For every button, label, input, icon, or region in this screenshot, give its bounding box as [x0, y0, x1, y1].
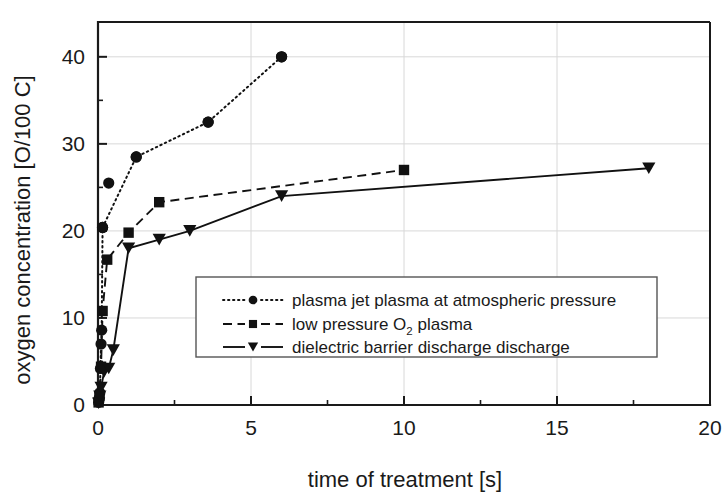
- chart-page: 05101520010203040 plasma jet plasma at a…: [0, 0, 723, 499]
- x-tick-label: 15: [545, 416, 568, 439]
- data-point-triangle-down: [107, 344, 120, 356]
- legend[interactable]: plasma jet plasma at atmospheric pressur…: [196, 277, 657, 357]
- legend-item-label: dielectric barrier discharge discharge: [292, 338, 570, 357]
- y-tick-label: 10: [62, 306, 85, 329]
- data-point-square: [249, 320, 257, 328]
- data-point-square: [97, 306, 107, 316]
- x-tick-label: 10: [392, 416, 415, 439]
- x-axis-title: time of treatment [s]: [308, 467, 502, 492]
- data-point-triangle-down: [122, 243, 135, 255]
- x-tick-label: 5: [245, 416, 257, 439]
- data-point-circle: [203, 117, 214, 128]
- y-tick-label: 0: [73, 393, 85, 416]
- data-point-circle: [97, 222, 108, 233]
- data-point-circle: [276, 51, 287, 62]
- data-point-square: [399, 165, 409, 175]
- y-tick-label: 20: [62, 219, 85, 242]
- data-point-circle: [131, 151, 142, 162]
- data-point-square: [154, 197, 164, 207]
- data-point-circle: [103, 177, 114, 188]
- y-tick-label: 30: [62, 132, 85, 155]
- data-point-square: [123, 227, 133, 237]
- data-point-triangle-down: [153, 234, 166, 246]
- legend-item-label: low pressure O2 plasma: [292, 315, 473, 337]
- data-point-circle: [249, 296, 258, 305]
- legend-item-label: plasma jet plasma at atmospheric pressur…: [292, 291, 616, 310]
- y-axis-title: oxygen concentration [O/100 C]: [10, 75, 35, 384]
- oxygen-concentration-chart: 05101520010203040 plasma jet plasma at a…: [0, 0, 723, 499]
- x-tick-label: 0: [92, 416, 104, 439]
- x-tick-label: 20: [698, 416, 721, 439]
- data-point-square: [102, 254, 112, 264]
- y-tick-label: 40: [62, 45, 85, 68]
